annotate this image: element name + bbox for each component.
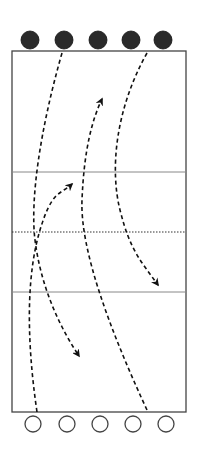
player-filled-2 [55, 31, 73, 49]
path-top-left-down [34, 53, 79, 356]
player-filled-5 [154, 31, 172, 49]
player-filled-3 [89, 31, 107, 49]
player-outline-4 [125, 416, 141, 432]
path-top-right-down [115, 53, 158, 285]
player-outline-2 [59, 416, 75, 432]
bottom-team-players [25, 416, 174, 432]
volleyball-drill-diagram [0, 0, 200, 453]
player-outline-5 [158, 416, 174, 432]
player-outline-1 [25, 416, 41, 432]
path-bottom-left-up [29, 184, 72, 412]
player-filled-1 [21, 31, 39, 49]
player-outline-3 [92, 416, 108, 432]
top-team-players [21, 31, 172, 49]
player-filled-4 [122, 31, 140, 49]
